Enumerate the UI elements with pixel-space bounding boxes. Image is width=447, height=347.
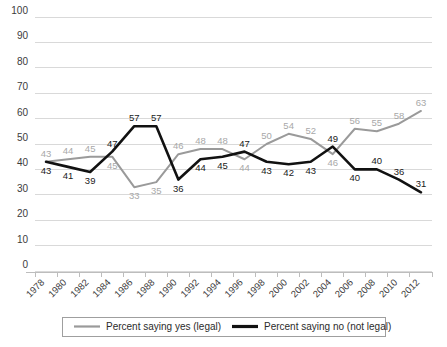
x-axis-label-1980: 1980 xyxy=(46,277,69,300)
x-axis-label-2010: 2010 xyxy=(377,277,400,300)
data-label-yes-1996: 44 xyxy=(239,162,250,173)
data-label-yes-2012: 63 xyxy=(416,97,427,108)
x-axis-label-2006: 2006 xyxy=(332,277,355,300)
x-axis-label-2008: 2008 xyxy=(355,277,378,300)
data-point-labels: 4344454533354648484450545246565558634341… xyxy=(41,97,427,201)
data-label-yes-2000: 54 xyxy=(283,120,294,131)
data-label-no-2000: 42 xyxy=(283,167,294,178)
y-axis-label-20: 20 xyxy=(17,208,29,219)
data-label-no-2002: 43 xyxy=(305,165,316,176)
x-axis-label-1992: 1992 xyxy=(178,277,201,300)
data-label-no-1994: 45 xyxy=(217,160,228,171)
data-series-lines xyxy=(46,111,421,192)
data-label-no-1996: 47 xyxy=(239,138,250,149)
data-label-yes-2010: 58 xyxy=(394,110,405,121)
x-axis-tick-labels: 1978198019821984198619881990199219941996… xyxy=(24,277,422,300)
data-label-no-1982: 39 xyxy=(85,175,96,186)
data-label-yes-1990: 46 xyxy=(173,140,184,151)
x-axis-label-1994: 1994 xyxy=(200,277,223,300)
series-line-yes-legal xyxy=(46,111,421,187)
y-axis-label-0: 0 xyxy=(22,259,28,270)
data-label-yes-1984: 45 xyxy=(107,160,118,171)
data-label-no-2012: 31 xyxy=(416,178,427,189)
x-axis-label-1990: 1990 xyxy=(156,277,179,300)
data-label-no-2004: 49 xyxy=(327,133,338,144)
data-label-yes-2002: 52 xyxy=(305,125,316,136)
legend-label-no-not-legal: Percent saying no (not legal) xyxy=(264,321,391,332)
data-label-yes-2006: 56 xyxy=(350,115,361,126)
y-axis-label-90: 90 xyxy=(17,30,29,41)
data-label-yes-2004: 46 xyxy=(327,157,338,168)
data-label-no-2006: 40 xyxy=(350,172,361,183)
x-axis-tick-marks xyxy=(35,272,432,277)
y-axis-label-30: 30 xyxy=(17,183,29,194)
y-axis-label-80: 80 xyxy=(17,56,29,67)
data-label-yes-1982: 45 xyxy=(85,143,96,154)
data-label-no-1992: 44 xyxy=(195,162,206,173)
data-label-no-1980: 41 xyxy=(63,170,74,181)
x-axis-label-1988: 1988 xyxy=(134,277,157,300)
data-label-yes-1992: 48 xyxy=(195,135,206,146)
x-axis-label-2000: 2000 xyxy=(266,277,289,300)
legend-label-yes-legal: Percent saying yes (legal) xyxy=(106,321,221,332)
y-axis-label-60: 60 xyxy=(17,107,29,118)
data-label-yes-1980: 44 xyxy=(63,145,74,156)
y-axis-label-40: 40 xyxy=(17,157,29,168)
data-label-no-1998: 43 xyxy=(261,165,272,176)
data-label-no-1984: 47 xyxy=(107,138,118,149)
data-label-yes-1998: 50 xyxy=(261,130,272,141)
line-chart: 0102030405060708090100 19781980198219841… xyxy=(0,0,447,347)
x-axis-label-1982: 1982 xyxy=(68,277,91,300)
x-axis-label-2012: 2012 xyxy=(399,277,422,300)
data-label-yes-2008: 55 xyxy=(372,117,383,128)
x-axis-label-1984: 1984 xyxy=(90,277,113,300)
chart-canvas: 0102030405060708090100 19781980198219841… xyxy=(0,0,447,347)
data-label-no-1986: 57 xyxy=(129,112,140,123)
y-axis-tick-labels: 0102030405060708090100 xyxy=(11,5,28,270)
x-axis-label-1986: 1986 xyxy=(112,277,135,300)
x-axis-label-2002: 2002 xyxy=(288,277,311,300)
data-label-no-1990: 36 xyxy=(173,183,184,194)
data-label-no-1978: 43 xyxy=(41,165,52,176)
x-axis-label-1996: 1996 xyxy=(222,277,245,300)
data-label-no-1988: 57 xyxy=(151,112,162,123)
y-axis-label-70: 70 xyxy=(17,81,29,92)
x-axis-label-1998: 1998 xyxy=(244,277,267,300)
x-axis-label-1978: 1978 xyxy=(24,277,47,300)
data-label-yes-1986: 33 xyxy=(129,190,140,201)
y-axis-label-100: 100 xyxy=(11,5,28,16)
data-label-yes-1988: 35 xyxy=(151,185,162,196)
data-label-no-2010: 36 xyxy=(394,166,405,177)
x-axis-label-2004: 2004 xyxy=(310,277,333,300)
data-label-no-2008: 40 xyxy=(372,155,383,166)
y-axis-label-50: 50 xyxy=(17,132,29,143)
data-label-yes-1978: 43 xyxy=(41,148,52,159)
data-label-yes-1994: 48 xyxy=(217,135,228,146)
y-axis-label-10: 10 xyxy=(17,234,29,245)
chart-legend: Percent saying yes (legal)Percent saying… xyxy=(62,317,391,336)
series-line-no-not-legal xyxy=(46,126,421,192)
